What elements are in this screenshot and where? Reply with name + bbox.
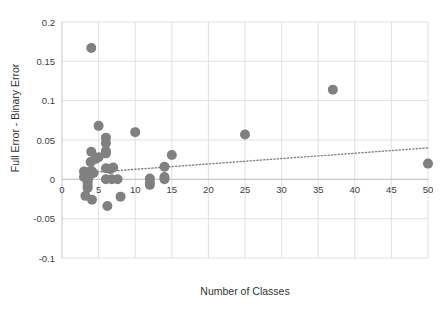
x-tick-label: 25 bbox=[240, 184, 251, 195]
y-tick-label: 0.2 bbox=[42, 17, 55, 28]
data-point bbox=[86, 43, 96, 53]
data-point bbox=[328, 85, 338, 95]
data-point bbox=[113, 174, 123, 184]
data-point bbox=[159, 162, 169, 172]
data-point bbox=[240, 129, 250, 139]
data-point bbox=[87, 195, 97, 205]
data-point bbox=[130, 127, 140, 137]
x-tick-label: 45 bbox=[386, 184, 397, 195]
data-point bbox=[94, 121, 104, 131]
data-point bbox=[145, 180, 155, 190]
x-tick-label: 5 bbox=[96, 184, 101, 195]
y-axis-tick-labels: -0.1-0.0500.050.10.150.2 bbox=[33, 17, 55, 264]
x-tick-label: 35 bbox=[313, 184, 324, 195]
data-point bbox=[108, 163, 118, 173]
y-tick-label: 0 bbox=[50, 174, 55, 185]
data-point bbox=[159, 174, 169, 184]
x-tick-label: 15 bbox=[167, 184, 178, 195]
y-axis-title: Full Error - Binary Error bbox=[9, 63, 21, 172]
x-axis-title: Number of Classes bbox=[200, 285, 289, 297]
x-axis-tick-labels: 05101520253035404550 bbox=[59, 184, 433, 195]
x-tick-label: 30 bbox=[276, 184, 287, 195]
gridlines bbox=[62, 22, 428, 258]
x-tick-label: 10 bbox=[130, 184, 141, 195]
x-tick-label: 40 bbox=[350, 184, 361, 195]
y-tick-label: -0.05 bbox=[33, 213, 55, 224]
scatter-chart: 05101520253035404550 -0.1-0.0500.050.10.… bbox=[0, 0, 448, 314]
data-point bbox=[423, 159, 433, 169]
data-point bbox=[116, 192, 126, 202]
y-tick-label: 0.05 bbox=[37, 135, 56, 146]
y-tick-label: -0.1 bbox=[39, 253, 55, 264]
data-point bbox=[102, 201, 112, 211]
chart-canvas: 05101520253035404550 -0.1-0.0500.050.10.… bbox=[0, 0, 448, 314]
y-tick-label: 0.15 bbox=[37, 56, 56, 67]
y-tick-label: 0.1 bbox=[42, 95, 55, 106]
x-tick-label: 0 bbox=[59, 184, 64, 195]
x-tick-label: 50 bbox=[423, 184, 434, 195]
data-point bbox=[94, 152, 104, 162]
data-point bbox=[167, 150, 177, 160]
x-tick-label: 20 bbox=[203, 184, 214, 195]
